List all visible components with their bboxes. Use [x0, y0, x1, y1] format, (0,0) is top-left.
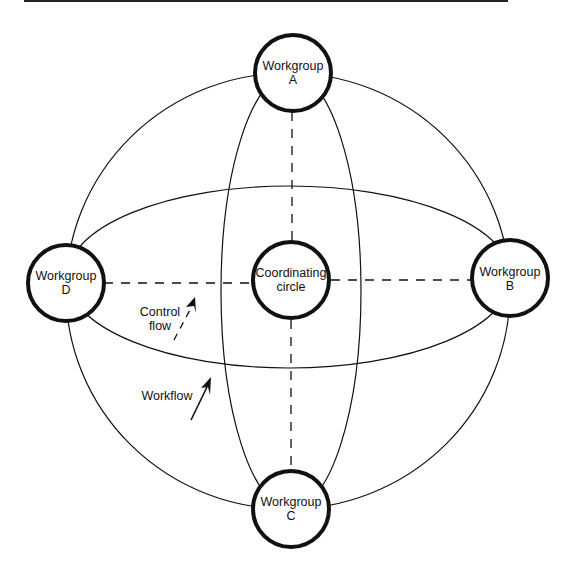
control-flow-label: Control flow	[130, 305, 190, 333]
workflow-label: Workflow	[140, 389, 194, 403]
workgroup-d-label-line1: Workgroup	[21, 269, 111, 283]
workgroup-d-label: Workgroup D	[21, 269, 111, 297]
coordinating-circle-label: Coordinating circle	[246, 266, 336, 294]
coordinating-circle-label-line1: Coordinating	[246, 266, 336, 280]
workgroup-c-label-line1: Workgroup	[246, 495, 336, 509]
workgroup-a-label: Workgroup A	[248, 59, 338, 87]
control-flow-label-line2: flow	[130, 319, 190, 333]
workgroup-b-label-line1: Workgroup	[465, 265, 555, 279]
workgroup-a-label-line2: A	[248, 73, 338, 87]
coordinating-circle-label-line2: circle	[246, 280, 336, 294]
workgroup-c-label-line2: C	[246, 509, 336, 523]
workgroup-a-label-line1: Workgroup	[248, 59, 338, 73]
workgroup-b-label: Workgroup B	[465, 265, 555, 293]
workgroup-b-label-line2: B	[465, 279, 555, 293]
workflow-arrowhead	[201, 377, 211, 395]
workflow-label-text: Workflow	[140, 389, 194, 403]
control-flow-label-line1: Control	[130, 305, 190, 319]
workgroup-d-label-line2: D	[21, 283, 111, 297]
workgroup-c-label: Workgroup C	[246, 495, 336, 523]
